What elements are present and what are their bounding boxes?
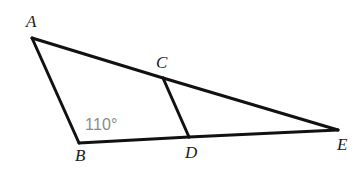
vertex-label-c: C bbox=[156, 54, 167, 71]
segment-CD bbox=[163, 78, 189, 137]
geometry-canvas bbox=[0, 0, 361, 171]
geometry-figure: A B C D E 110° bbox=[0, 0, 361, 171]
angle-measure-label-b: 110° bbox=[85, 117, 118, 133]
segment-BD bbox=[79, 137, 189, 143]
vertex-label-e: E bbox=[337, 136, 347, 153]
segment-AB bbox=[32, 38, 79, 143]
vertex-label-a: A bbox=[26, 13, 36, 30]
segment-CE bbox=[163, 78, 338, 130]
vertex-label-d: D bbox=[185, 144, 197, 161]
vertex-label-b: B bbox=[75, 147, 85, 164]
segment-AC bbox=[32, 38, 163, 78]
segment-DE bbox=[189, 130, 338, 137]
